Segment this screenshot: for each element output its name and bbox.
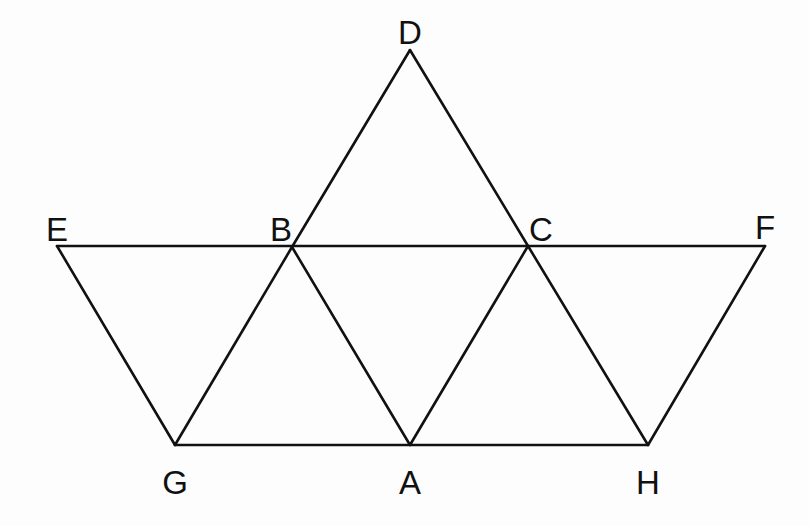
vertex-label-F: F xyxy=(755,211,775,244)
segment-BG xyxy=(175,247,292,445)
segment-DB xyxy=(292,50,410,247)
geometry-diagram: DEBCFGAH xyxy=(0,0,809,526)
vertex-label-C: C xyxy=(529,213,553,246)
vertex-label-H: H xyxy=(636,466,660,499)
vertex-label-G: G xyxy=(162,466,188,499)
vertex-label-D: D xyxy=(398,16,422,49)
segment-CA xyxy=(410,246,528,445)
diagram-lines xyxy=(0,0,809,526)
segment-EG xyxy=(57,246,175,445)
segment-CH xyxy=(528,246,648,445)
segment-DC xyxy=(410,50,528,246)
segment-BA xyxy=(292,247,410,445)
segment-FH xyxy=(648,246,765,445)
vertex-label-A: A xyxy=(399,466,421,499)
vertex-label-E: E xyxy=(46,213,68,246)
vertex-label-B: B xyxy=(270,213,292,246)
